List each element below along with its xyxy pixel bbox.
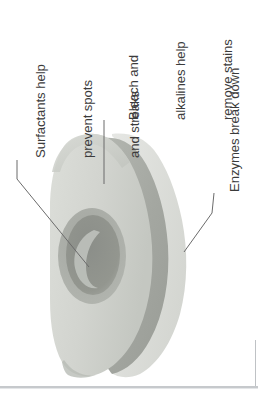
page-divider-shadow (0, 388, 258, 389)
callout-label-enzymes: Enzymes break down food deposits (196, 68, 258, 192)
figure-canvas: Surfactants help prevent spots and strea… (0, 0, 258, 396)
callout-line: prevent spots (80, 64, 96, 158)
callout-line: Bleach and (126, 39, 142, 120)
leader-line-surfactants (0, 150, 110, 280)
callout-line: Enzymes break down (227, 68, 243, 192)
right-edge-tick (255, 340, 256, 386)
leader-line-enzymes (176, 190, 224, 260)
callout-line: Surfactants help (33, 64, 49, 158)
callout-line: alkalines help (173, 39, 189, 120)
